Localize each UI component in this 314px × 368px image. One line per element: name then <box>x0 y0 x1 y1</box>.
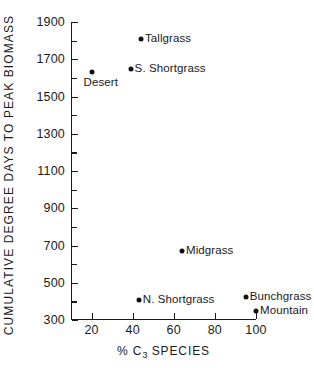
y-tick-mark <box>72 283 78 284</box>
y-tick-label: 1900 <box>36 15 65 29</box>
y-tick-mark <box>72 97 78 98</box>
y-tick-mark <box>72 208 78 209</box>
scatter-plot-figure: CUMULATIVE DEGREE DAYS TO PEAK BIOMASS 3… <box>0 0 314 368</box>
y-tick-mark <box>72 171 78 172</box>
x-axis-title: % C3 SPECIES <box>71 344 256 360</box>
y-tick-label: 1500 <box>36 90 65 104</box>
y-minor-tick-1600 <box>72 78 77 79</box>
y-tick-label: 1700 <box>36 52 65 66</box>
x-tick-label: 40 <box>126 323 140 337</box>
data-point-label-bunchgrass: Bunchgrass <box>250 290 312 302</box>
data-point-label-mountain: Mountain <box>260 304 308 316</box>
x-tick-label: 100 <box>245 323 266 337</box>
x-tick-mark <box>92 313 93 319</box>
y-minor-tick-1400 <box>72 115 77 116</box>
data-point-label-s-shortgrass: S. Shortgrass <box>135 62 206 74</box>
y-minor-tick-400 <box>72 301 77 302</box>
data-point-label-tallgrass: Tallgrass <box>145 32 191 44</box>
y-axis-title: CUMULATIVE DEGREE DAYS TO PEAK BIOMASS <box>2 5 22 345</box>
y-minor-tick-600 <box>72 264 77 265</box>
y-tick-mark <box>72 320 78 321</box>
y-minor-tick-1000 <box>72 190 77 191</box>
data-point-label-desert: Desert <box>84 76 118 88</box>
x-tick-label: 80 <box>208 323 222 337</box>
data-point-bunchgrass <box>243 294 248 299</box>
data-point-label-midgrass: Midgrass <box>186 244 233 256</box>
data-point-desert <box>89 70 94 75</box>
y-tick-label: 900 <box>44 201 65 215</box>
y-tick-label: 1300 <box>36 127 65 141</box>
x-tick-label: 60 <box>167 323 181 337</box>
x-axis-title-suffix: SPECIES <box>147 344 210 358</box>
x-tick-mark <box>133 313 134 319</box>
y-tick-label: 1100 <box>37 164 65 178</box>
y-tick-mark <box>72 134 78 135</box>
y-minor-tick-800 <box>72 227 77 228</box>
plot-area: 30050070090011001300150017001900 2040608… <box>71 22 256 320</box>
x-tick-mark <box>256 313 257 319</box>
data-point-n-shortgrass <box>136 297 141 302</box>
data-point-label-n-shortgrass: N. Shortgrass <box>143 293 215 305</box>
data-point-mountain <box>254 308 259 313</box>
y-minor-tick-1200 <box>72 152 77 153</box>
data-point-tallgrass <box>138 36 143 41</box>
x-axis-title-prefix: % C <box>117 344 142 358</box>
x-tick-mark <box>174 313 175 319</box>
y-tick-label: 300 <box>44 313 65 327</box>
data-point-s-shortgrass <box>128 67 133 72</box>
data-point-midgrass <box>180 249 185 254</box>
x-tick-mark <box>215 313 216 319</box>
x-tick-label: 20 <box>84 323 98 337</box>
y-tick-label: 500 <box>44 276 65 290</box>
y-tick-label: 700 <box>44 239 65 253</box>
x-axis-line <box>71 319 256 320</box>
y-tick-mark <box>72 22 78 23</box>
y-minor-tick-1800 <box>72 41 77 42</box>
y-tick-mark <box>72 59 78 60</box>
y-tick-mark <box>72 246 78 247</box>
